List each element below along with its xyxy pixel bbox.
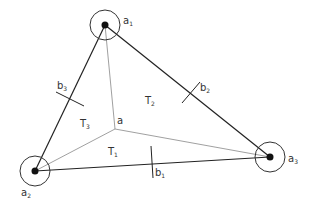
label-a1: a1 — [123, 15, 133, 27]
label-b3: b3 — [57, 80, 67, 92]
label-a3: a3 — [288, 153, 298, 165]
label-a2: a2 — [21, 187, 31, 199]
spoke-a2 — [35, 129, 115, 171]
label-T2: T2 — [144, 95, 155, 107]
spoke-a3 — [115, 129, 270, 157]
label-T1: T1 — [107, 146, 118, 158]
tick-b1 — [151, 146, 153, 178]
tick-b3 — [56, 92, 84, 106]
triangle-diagram: a1 a2 a3 a b1 b2 b3 T1 T2 T3 — [0, 0, 312, 207]
label-b1: b1 — [155, 167, 165, 179]
vertex-a3 — [255, 142, 285, 172]
spoke-a1 — [105, 25, 115, 129]
label-center-a: a — [117, 115, 123, 126]
vertex-a2 — [20, 156, 50, 186]
vertex-a1 — [90, 10, 120, 40]
edge-b3 — [35, 25, 105, 171]
edge-b2 — [105, 25, 270, 157]
label-T3: T3 — [79, 118, 90, 130]
label-b2: b2 — [200, 82, 210, 94]
tick-b2 — [182, 82, 200, 103]
